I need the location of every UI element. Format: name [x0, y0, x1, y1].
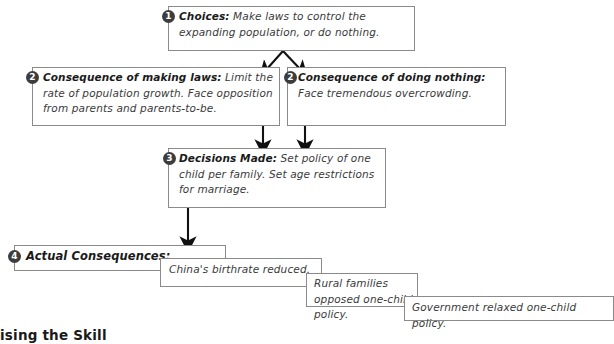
node-consequence-doing-nothing-text: Consequence of doing nothing: Face treme… — [298, 70, 503, 101]
node-decisions-made-text: Decisions Made: Set policy of one child … — [179, 151, 383, 198]
node-choices-text: Choices: Make laws to control the expand… — [179, 9, 411, 40]
node-outcome-rural-opposition-body: Rural families opposed one-child policy. — [314, 277, 416, 320]
node-outcome-rural-opposition-text: Rural families opposed one-child policy. — [314, 276, 418, 323]
node-choices-label: Choices: — [179, 10, 230, 22]
node-decisions-made-label: Decisions Made: — [179, 152, 277, 164]
node-outcome-relaxed-policy-text: Government relaxed one-child policy. — [412, 300, 610, 331]
node-consequence-doing-nothing-marker: 2 — [284, 71, 297, 84]
node-consequence-doing-nothing-label: Consequence of doing nothing: — [298, 71, 486, 83]
node-consequence-making-laws-label: Consequence of making laws: — [43, 71, 222, 83]
node-actual-consequences-label: Actual Consequences: — [26, 249, 170, 263]
node-outcome-birthrate-text: China's birthrate reduced. — [169, 262, 319, 278]
footer-section-heading: ising the Skill — [0, 327, 107, 343]
node-outcome-birthrate-body: China's birthrate reduced. — [169, 263, 310, 275]
node-outcome-relaxed-policy-body: Government relaxed one-child policy. — [412, 301, 580, 329]
node-choices-marker: 1 — [162, 10, 175, 23]
node-consequence-making-laws-marker: 2 — [26, 71, 39, 84]
node-decisions-made-marker: 3 — [163, 152, 176, 165]
node-actual-consequences-marker: 4 — [8, 250, 21, 263]
node-consequence-making-laws-text: Consequence of making laws: Limit the ra… — [43, 70, 277, 117]
